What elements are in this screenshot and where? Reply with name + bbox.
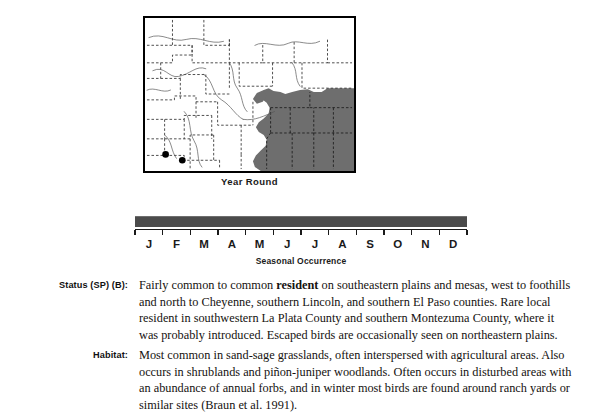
month-label-3: A [228, 238, 236, 250]
axis-tick [383, 230, 384, 235]
month-label-9: O [393, 238, 402, 250]
range-shading-notch [253, 90, 267, 104]
month-label-0: J [146, 238, 152, 250]
axis-tick [273, 230, 274, 235]
habitat-entry: Habitat: Most common in sand-sage grassl… [26, 347, 576, 413]
month-label-4: M [255, 238, 265, 250]
axis-tick [245, 230, 246, 235]
month-label-8: S [366, 238, 374, 250]
habitat-text: Most common in sand-sage grasslands, oft… [139, 347, 576, 413]
seasonal-caption: Seasonal Occurrence [135, 256, 467, 266]
axis-tick [300, 230, 301, 235]
month-label-7: A [338, 238, 346, 250]
seasonal-axis [135, 229, 467, 237]
axis-tick [217, 230, 218, 235]
status-label: Status (SP) (B): [26, 277, 128, 294]
axis-tick [190, 230, 191, 235]
species-range-map-figure: Year Round [143, 16, 356, 173]
year-round-range-shading [253, 88, 354, 171]
map-caption: Year Round [143, 176, 356, 187]
seasonal-bar-wrap [135, 216, 467, 227]
axis-tick [134, 230, 135, 235]
map-frame [143, 16, 356, 173]
la-plata-record-dot [162, 151, 169, 158]
axis-tick [439, 230, 440, 235]
month-label-row: JFMAMJJASOND [135, 238, 467, 254]
axis-tick [411, 230, 412, 235]
month-label-11: D [449, 238, 457, 250]
month-label-10: N [421, 238, 429, 250]
habitat-label: Habitat: [26, 347, 128, 364]
axis-tick [356, 230, 357, 235]
month-label-6: J [312, 238, 318, 250]
month-label-5: J [284, 238, 290, 250]
status-text-before-bold: Fairly common to common [139, 278, 276, 292]
status-entry: Status (SP) (B): Fairly common to common… [26, 277, 576, 343]
seasonal-occurrence-bar [135, 216, 467, 227]
montezuma-record-dot [179, 157, 186, 164]
status-text: Fairly common to common resident on sout… [139, 277, 576, 343]
status-bold-word: resident [276, 278, 318, 292]
colorado-range-map [145, 18, 354, 171]
month-label-2: M [199, 238, 209, 250]
seasonal-occurrence-figure: JFMAMJJASOND Seasonal Occurrence [135, 216, 467, 266]
axis-tick [162, 230, 163, 235]
axis-tick [328, 230, 329, 235]
axis-tick [466, 230, 467, 235]
month-label-1: F [173, 238, 180, 250]
